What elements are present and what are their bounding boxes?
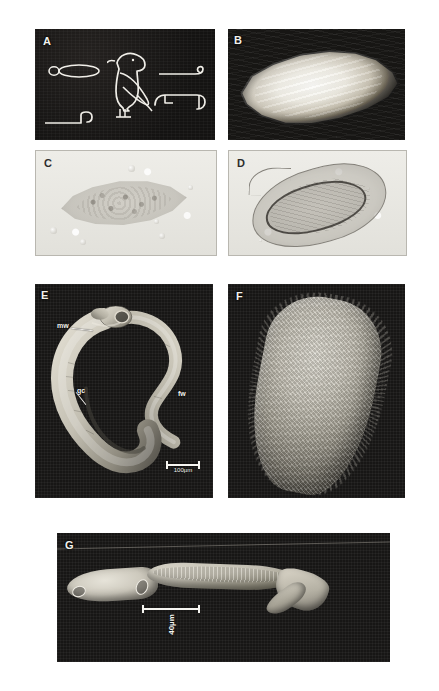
panel-e: mw gc fw 100µm E: [35, 284, 213, 498]
panel-f: F: [228, 284, 405, 498]
hook-sign-glyph: [45, 111, 97, 127]
panel-a: A: [35, 29, 215, 140]
panel-e-scalebar: 100µm: [166, 464, 200, 473]
panel-e-letter: E: [41, 289, 49, 301]
panel-d-letter: D: [237, 157, 245, 169]
panel-e-scalebar-label: 100µm: [166, 467, 200, 473]
cercaria-body-segment: [146, 561, 296, 592]
oval-with-stem-glyph: [47, 63, 103, 79]
cercaria-specimen: [67, 561, 333, 605]
panel-g: 40µm G: [57, 533, 390, 662]
label-mw: mw: [57, 322, 69, 329]
label-fw: fw: [178, 390, 186, 397]
bird-glyph: [107, 47, 157, 121]
label-gc: gc: [77, 387, 85, 394]
angular-sign-glyph: [153, 89, 209, 115]
panel-g-letter: G: [65, 539, 74, 551]
reed-stroke-glyph: [159, 65, 207, 79]
panel-a-letter: A: [43, 35, 51, 47]
panel-g-scalebar-label: 40µm: [167, 596, 176, 654]
panel-d: D: [228, 150, 407, 256]
panel-c: C: [35, 150, 217, 256]
panel-b: B: [228, 29, 405, 140]
panel-c-letter: C: [44, 157, 52, 169]
figure-plate: A: [0, 0, 439, 691]
panel-f-letter: F: [236, 290, 243, 302]
panel-g-scalebar: 40µm: [142, 608, 200, 629]
panel-b-letter: B: [234, 34, 242, 46]
